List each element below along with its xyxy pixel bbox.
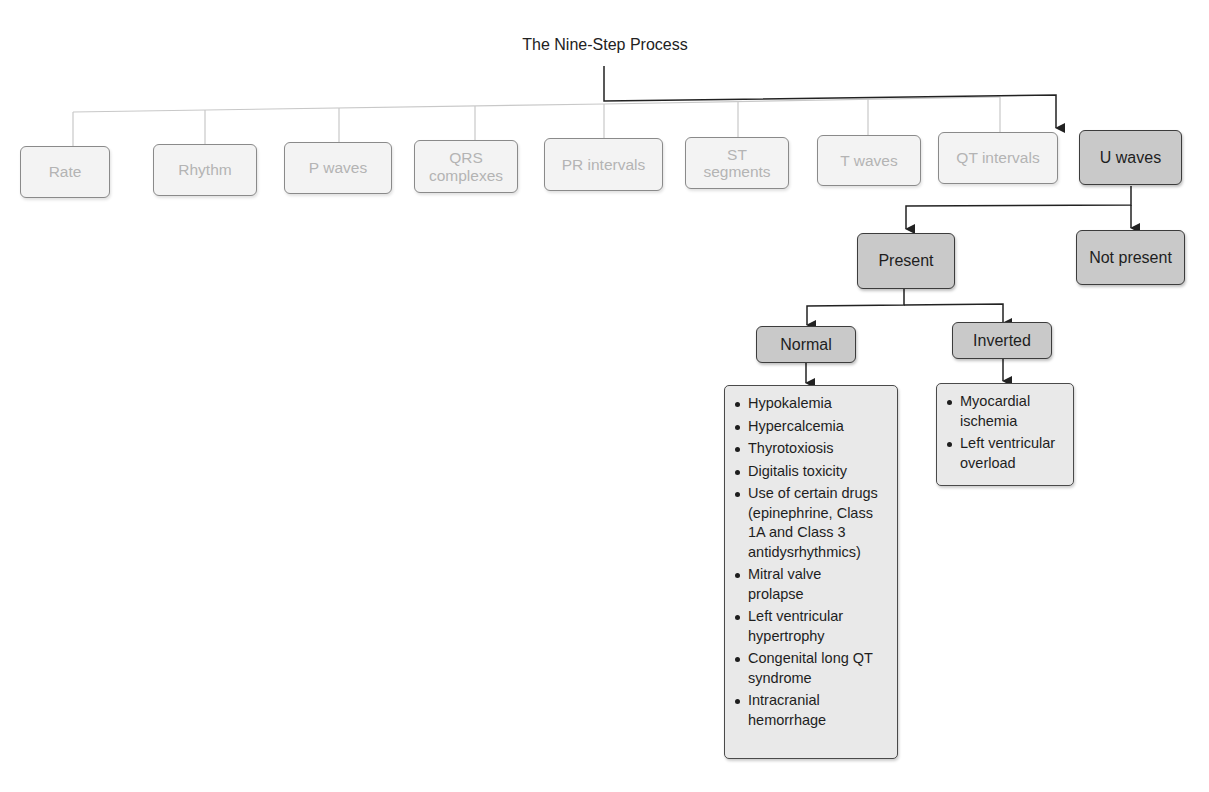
step-label: U waves: [1100, 149, 1161, 167]
step-st-segments: ST segments: [685, 137, 789, 189]
step-t-waves: T waves: [817, 135, 921, 186]
normal-causes-list: Hypokalemia Hypercalcemia Thyrotoxiosis …: [724, 385, 898, 759]
branch-label: Inverted: [973, 332, 1031, 350]
step-qrs-complexes: QRS complexes: [414, 140, 518, 193]
list-item: Myocardial ischemia: [945, 392, 1067, 431]
step-label: ST segments: [702, 146, 772, 180]
branch-label: Not present: [1089, 249, 1172, 267]
branch-inverted: Inverted: [952, 322, 1052, 359]
step-p-waves: P waves: [284, 142, 392, 194]
branch-label: Normal: [780, 336, 832, 354]
step-rate: Rate: [20, 146, 110, 198]
step-qt-intervals: QT intervals: [938, 132, 1058, 184]
step-label: PR intervals: [562, 156, 646, 173]
step-label: Rate: [49, 163, 82, 180]
list-item: Left ventricular hypertrophy: [733, 607, 891, 646]
step-label: QRS complexes: [426, 149, 506, 183]
step-label: P waves: [309, 159, 367, 176]
list-item: Intracranial hemorrhage: [733, 691, 891, 730]
list-item: Congenital long QT syndrome: [733, 649, 891, 688]
list-item: Hypercalcemia: [733, 417, 891, 437]
step-label: Rhythm: [178, 161, 231, 178]
step-u-waves: U waves: [1079, 130, 1182, 185]
list-item: Use of certain drugs (epinephrine, Class…: [733, 484, 891, 562]
step-label: QT intervals: [956, 149, 1039, 166]
step-pr-intervals: PR intervals: [544, 138, 663, 191]
branch-normal: Normal: [756, 326, 856, 363]
branch-not-present: Not present: [1076, 230, 1185, 285]
list-item: Mitral valve prolapse: [733, 565, 891, 604]
list-item: Thyrotoxiosis: [733, 439, 891, 459]
inverted-causes-list: Myocardial ischemia Left ventricular ove…: [936, 383, 1074, 486]
step-label: T waves: [840, 152, 897, 169]
step-rhythm: Rhythm: [153, 144, 257, 196]
list-item: Digitalis toxicity: [733, 462, 891, 482]
branch-present: Present: [857, 233, 955, 289]
list-item: Left ventricular overload: [945, 434, 1067, 473]
branch-label: Present: [878, 252, 933, 270]
list-item: Hypokalemia: [733, 394, 891, 414]
